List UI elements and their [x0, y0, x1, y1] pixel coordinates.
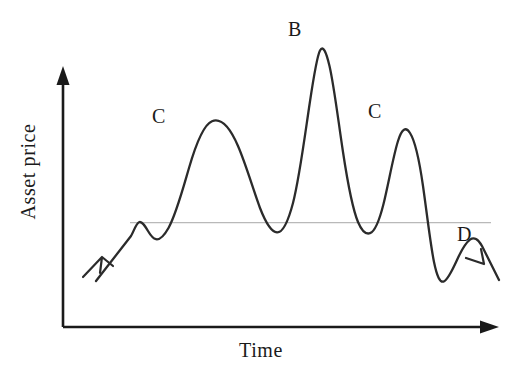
annotation-label-d: D: [457, 224, 471, 244]
y-axis-label: Asset price: [17, 102, 40, 242]
asset-price-curve: [96, 48, 499, 281]
x-axis-label: Time: [0, 339, 522, 362]
annotation-label-c-right: C: [368, 101, 381, 121]
chart-figure: Asset price Time C B C D: [0, 0, 522, 376]
annotation-label-c-left: C: [152, 106, 165, 126]
curve-start-arrowhead-icon: [83, 257, 113, 277]
annotation-label-b: B: [288, 19, 301, 39]
y-axis-arrowhead-icon: [57, 66, 70, 85]
curve-end-arrowhead-icon: [466, 249, 484, 264]
chart-canvas: [0, 0, 522, 376]
x-axis-arrowhead-icon: [480, 321, 499, 334]
